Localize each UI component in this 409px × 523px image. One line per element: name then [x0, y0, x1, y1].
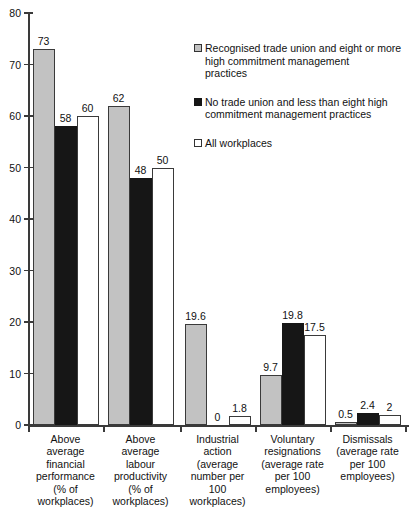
legend-label-line: practices: [205, 67, 401, 80]
x-tick-mark: [103, 425, 105, 432]
x-category-label: Aboveaveragelabourproductivity(% ofworkp…: [99, 433, 182, 507]
bar: [33, 49, 55, 425]
legend-item[interactable]: No trade union and less than eight highc…: [194, 96, 407, 121]
x-axis-line: [28, 425, 409, 427]
x-category-label: Industrialaction(averagenumber per100wor…: [176, 433, 259, 507]
x-category-label: Voluntaryresignations(average rateper 10…: [251, 433, 334, 495]
x-category-label-line: employees): [326, 470, 409, 482]
bar: [379, 415, 401, 425]
legend-swatch-icon: [194, 139, 202, 147]
x-category-label-line: (% of: [24, 483, 107, 495]
bar: [229, 416, 251, 425]
y-tick-label: 10: [0, 369, 21, 379]
bar: [260, 375, 282, 425]
x-category-label-line: (average: [176, 458, 259, 470]
legend-label-line: Recognised trade union and eight or more: [205, 42, 401, 55]
bar: [357, 413, 379, 425]
x-category-label-line: performance: [24, 470, 107, 482]
chart-legend: Recognised trade union and eight or more…: [194, 42, 407, 166]
bar: [55, 126, 77, 425]
x-category-label-line: Voluntary: [251, 433, 334, 445]
x-category-label-line: 100: [176, 483, 259, 495]
y-tick-label: 0: [0, 420, 21, 430]
legend-label-line: commitment management practices: [205, 108, 388, 121]
x-category-label-line: productivity: [99, 470, 182, 482]
x-category-label-line: (average rate: [326, 445, 409, 457]
x-category-label-line: labour: [99, 458, 182, 470]
bar: [152, 168, 174, 426]
x-category-label-line: resignations: [251, 445, 334, 457]
bar-value-label: 50: [143, 155, 183, 166]
x-category-label: Dismissals(average rateper 100employees): [326, 433, 409, 483]
x-tick-mark: [255, 425, 257, 432]
legend-swatch-icon: [194, 98, 202, 106]
legend-swatch-icon: [194, 44, 202, 52]
bar-value-label: 1.8: [220, 403, 260, 414]
x-category-label-line: financial: [24, 458, 107, 470]
x-category-label-line: number per: [176, 470, 259, 482]
x-category-label-line: per 100: [251, 470, 334, 482]
y-tick-label: 30: [0, 266, 21, 276]
bar: [282, 323, 304, 425]
x-category-label-line: action: [176, 445, 259, 457]
x-category-label-line: (% of: [99, 483, 182, 495]
bar-value-label: 62: [99, 93, 139, 104]
x-category-label: Aboveaveragefinancialperformance(% ofwor…: [24, 433, 107, 507]
x-tick-mark: [28, 425, 30, 432]
y-tick-label: 80: [0, 8, 21, 18]
x-category-label-line: Dismissals: [326, 433, 409, 445]
bar-value-label: 19.8: [273, 310, 313, 321]
x-category-label-line: workplaces): [24, 495, 107, 507]
bar-value-label: 19.6: [176, 311, 216, 322]
legend-label-line: All workplaces: [205, 137, 272, 150]
x-category-label-line: Above: [99, 433, 182, 445]
bar-chart: 01020304050607080 73586062485019.601.89.…: [0, 0, 409, 523]
bar: [77, 116, 99, 425]
bar-value-label: 60: [68, 103, 108, 114]
y-tick-label: 20: [0, 317, 21, 327]
bar: [185, 324, 207, 425]
bar: [335, 422, 357, 425]
x-category-label-line: average: [24, 445, 107, 457]
x-category-label-line: workplaces): [176, 495, 259, 507]
legend-label-line: high commitment management: [205, 55, 401, 68]
y-tick-label: 70: [0, 60, 21, 70]
legend-label: Recognised trade union and eight or more…: [205, 42, 401, 80]
legend-item[interactable]: All workplaces: [194, 137, 407, 150]
x-category-label-line: employees): [251, 483, 334, 495]
bar-value-label: 73: [24, 36, 64, 47]
x-tick-mark: [330, 425, 332, 432]
bar: [108, 106, 130, 425]
x-category-label-line: per 100: [326, 458, 409, 470]
bar-value-label: 17.5: [295, 322, 335, 333]
y-tick-label: 40: [0, 214, 21, 224]
legend-item[interactable]: Recognised trade union and eight or more…: [194, 42, 407, 80]
bar-value-label: 2: [370, 402, 409, 413]
x-category-label-line: workplaces): [99, 495, 182, 507]
x-category-label-line: Industrial: [176, 433, 259, 445]
bar: [130, 178, 152, 425]
legend-label: No trade union and less than eight highc…: [205, 96, 388, 121]
x-category-label-line: average: [99, 445, 182, 457]
x-tick-mark: [180, 425, 182, 432]
x-tick-mark: [405, 425, 407, 432]
x-category-label-line: (average rate: [251, 458, 334, 470]
x-category-label-line: Above: [24, 433, 107, 445]
legend-label: All workplaces: [205, 137, 272, 150]
y-tick-mark: [24, 12, 33, 14]
legend-label-line: No trade union and less than eight high: [205, 96, 388, 109]
y-tick-label: 50: [0, 163, 21, 173]
y-tick-label: 60: [0, 111, 21, 121]
bar: [304, 335, 326, 425]
